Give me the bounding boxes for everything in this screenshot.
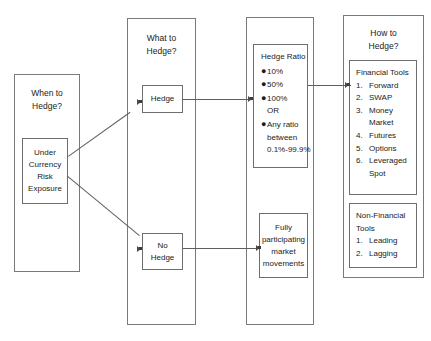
node-line: No	[157, 240, 167, 252]
node-line: Under	[34, 147, 56, 159]
title-line: Financial Tools	[356, 67, 416, 80]
non-financial-tool-item: 1.Leading	[356, 235, 416, 248]
node-hedge[interactable]: Hedge	[142, 85, 183, 113]
header-line: Hedge?	[128, 45, 195, 58]
hedge-ratio-title: Hedge Ratio	[261, 51, 307, 64]
node-hedge-ratio[interactable]: Hedge Ratio ●10% ●50% ●100% OR ●Any rati…	[253, 44, 308, 168]
arrow-tip-marker	[347, 83, 350, 86]
node-line: Exposure	[28, 183, 62, 195]
item-number: 6.	[356, 155, 369, 168]
hedge-ratio-item: between	[261, 132, 307, 145]
hedge-ratio-item: 0.1%-99.9%	[261, 144, 307, 157]
item-label: Futures	[369, 131, 396, 140]
node-line: Risk	[37, 171, 53, 183]
arrow-tip-marker	[258, 246, 261, 249]
item-number: 2.	[356, 92, 369, 105]
hedge-ratio-item-label: between	[267, 133, 297, 142]
item-label: Money	[369, 106, 393, 115]
node-no-hedge[interactable]: No Hedge	[142, 233, 183, 270]
header-line: Hedge?	[344, 40, 423, 53]
node-line: movements	[263, 258, 304, 270]
item-number: 1.	[356, 80, 369, 93]
hedge-ratio-item-label: 10%	[267, 67, 283, 76]
hedge-ratio-item-label: 100%	[267, 94, 287, 103]
hedge-ratio-item: ●100%	[261, 92, 307, 106]
title-line: Non-Financial	[356, 210, 416, 223]
item-label: Lagging	[369, 249, 397, 258]
item-number: 2.	[356, 248, 369, 261]
arrow-tip-marker	[139, 100, 142, 103]
column-what-to-hedge-header: What to Hedge?	[128, 32, 195, 57]
node-line: Currency	[29, 159, 61, 171]
column-when-to-hedge-header: When to Hedge?	[15, 87, 79, 112]
node-non-financial-tools[interactable]: Non-Financial Tools 1.Leading 2.Lagging	[349, 203, 417, 268]
node-line: Fully	[275, 222, 292, 234]
item-label: Leveraged	[369, 156, 407, 165]
node-line: Hedge	[151, 93, 175, 105]
item-label: Leading	[369, 236, 397, 245]
diagram-canvas: When to Hedge? Under Currency Risk Expos…	[0, 0, 431, 341]
hedge-ratio-item: ●50%	[261, 78, 307, 92]
node-under-currency-risk-exposure[interactable]: Under Currency Risk Exposure	[22, 138, 68, 204]
item-number: 3.	[356, 105, 369, 118]
header-line: What to	[128, 32, 195, 45]
hedge-ratio-item-label: 0.1%-99.9%	[267, 145, 311, 154]
hedge-ratio-item: OR	[261, 105, 307, 118]
node-line: participating	[262, 234, 305, 246]
item-label-cont: Market	[356, 117, 416, 130]
node-line: market	[271, 246, 295, 258]
financial-tool-item: 5.Options	[356, 143, 416, 156]
connector-hedge-to-hedge-ratio	[183, 99, 250, 100]
financial-tool-item: 4.Futures	[356, 130, 416, 143]
item-number: 4.	[356, 130, 369, 143]
title-line: Tools	[356, 223, 416, 236]
column-what-to-hedge: What to Hedge?	[127, 18, 196, 325]
node-line: Hedge	[151, 252, 175, 264]
hedge-ratio-item-label: Any ratio	[267, 120, 299, 129]
hedge-ratio-item-label: 50%	[267, 80, 283, 89]
non-financial-tools-title: Non-Financial Tools	[356, 210, 416, 235]
item-number: 1.	[356, 235, 369, 248]
non-financial-tool-item: 2.Lagging	[356, 248, 416, 261]
financial-tool-item: 2.SWAP	[356, 92, 416, 105]
item-label: SWAP	[369, 93, 392, 102]
arrow-tip-marker	[250, 97, 253, 100]
header-line: Hedge?	[15, 100, 79, 113]
item-label: Options	[369, 144, 397, 153]
item-label: Forward	[369, 81, 398, 90]
hedge-ratio-item: ●Any ratio	[261, 118, 307, 132]
header-line: When to	[15, 87, 79, 100]
node-fully-participating-market-movements[interactable]: Fully participating market movements	[259, 213, 308, 278]
financial-tools-title: Financial Tools	[356, 67, 416, 80]
financial-tool-item: 3.Money Market	[356, 105, 416, 130]
node-financial-tools[interactable]: Financial Tools 1.Forward 2.SWAP 3.Money…	[349, 60, 417, 195]
arrow-tip-marker	[139, 247, 142, 250]
item-number: 5.	[356, 143, 369, 156]
column-how-to-hedge-header: How to Hedge?	[344, 27, 423, 52]
financial-tool-item: 6.Leveraged Spot	[356, 155, 416, 180]
connector-no-hedge-to-outcome	[183, 248, 261, 249]
hedge-ratio-item: ●10%	[261, 65, 307, 79]
financial-tool-item: 1.Forward	[356, 80, 416, 93]
hedge-ratio-item-label: OR	[267, 106, 279, 115]
item-label-cont: Spot	[356, 168, 416, 181]
header-line: How to	[344, 27, 423, 40]
